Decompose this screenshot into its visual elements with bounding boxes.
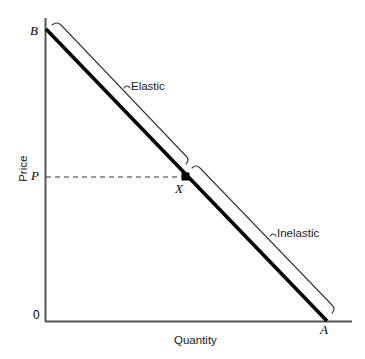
inelastic-region-label: Inelastic bbox=[277, 228, 319, 240]
origin-label: 0 bbox=[33, 309, 40, 321]
midpoint-x-marker bbox=[182, 173, 190, 181]
elastic-leader-tick bbox=[124, 86, 130, 88]
elastic-region-label: Elastic bbox=[131, 81, 165, 93]
point-b-label: B bbox=[30, 24, 38, 37]
point-a-label: A bbox=[320, 323, 328, 336]
inelastic-brace bbox=[192, 166, 334, 313]
x-axis-label: Quantity bbox=[174, 335, 217, 347]
plot-area bbox=[0, 0, 365, 359]
elastic-brace bbox=[52, 23, 188, 164]
point-x-label: X bbox=[175, 182, 183, 195]
inelastic-leader-tick bbox=[270, 234, 276, 236]
price-p-label: P bbox=[31, 169, 39, 182]
y-axis-label: Price bbox=[18, 139, 30, 199]
elasticity-demand-curve-figure: B P X A 0 Elastic Inelastic Quantity Pri… bbox=[0, 0, 365, 359]
